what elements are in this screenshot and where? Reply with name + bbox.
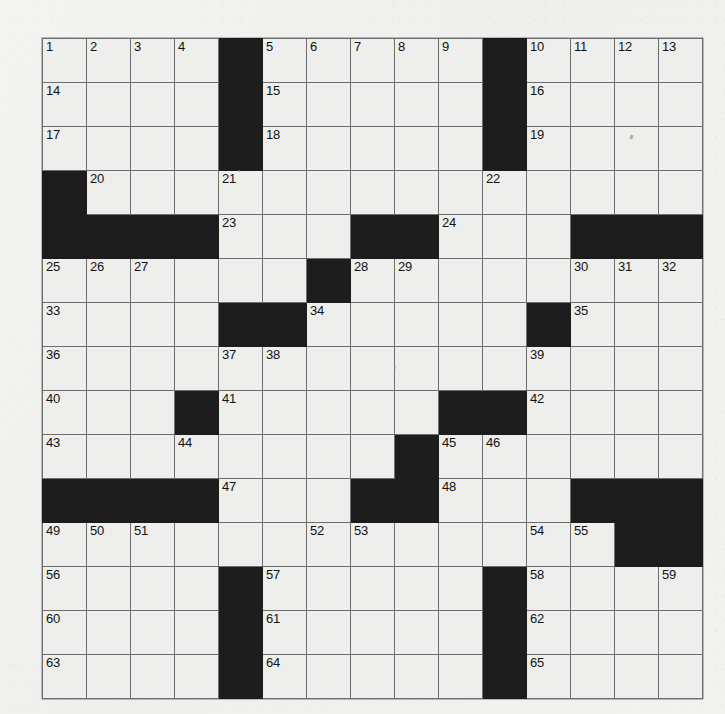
crossword-cell-numbered[interactable]: 3 [131, 39, 175, 83]
crossword-cell-numbered[interactable]: 4 [175, 39, 219, 83]
crossword-cell[interactable] [263, 479, 307, 523]
crossword-cell-numbered[interactable]: 41 [219, 391, 263, 435]
crossword-cell[interactable] [615, 303, 659, 347]
crossword-cell[interactable] [615, 655, 659, 699]
crossword-cell-numbered[interactable]: 10 [527, 39, 571, 83]
crossword-cell-numbered[interactable]: 17 [43, 127, 87, 171]
crossword-cell[interactable] [571, 435, 615, 479]
crossword-cell-numbered[interactable]: 27 [131, 259, 175, 303]
crossword-cell[interactable] [395, 303, 439, 347]
crossword-cell[interactable] [527, 215, 571, 259]
crossword-cell[interactable] [175, 655, 219, 699]
crossword-cell-numbered[interactable]: 51 [131, 523, 175, 567]
crossword-cell[interactable] [263, 215, 307, 259]
crossword-cell-numbered[interactable]: 28 [351, 259, 395, 303]
crossword-cell[interactable] [571, 127, 615, 171]
crossword-cell[interactable] [307, 347, 351, 391]
crossword-cell[interactable] [219, 523, 263, 567]
crossword-cell[interactable] [659, 611, 703, 655]
crossword-cell[interactable] [175, 567, 219, 611]
crossword-cell[interactable] [395, 391, 439, 435]
crossword-cell[interactable] [659, 303, 703, 347]
crossword-cell[interactable] [219, 259, 263, 303]
crossword-cell[interactable] [263, 259, 307, 303]
crossword-cell[interactable] [131, 83, 175, 127]
crossword-cell[interactable] [307, 435, 351, 479]
crossword-cell[interactable] [351, 303, 395, 347]
crossword-cell-numbered[interactable]: 52 [307, 523, 351, 567]
crossword-cell[interactable] [571, 567, 615, 611]
crossword-cell[interactable] [307, 83, 351, 127]
crossword-cell[interactable] [395, 523, 439, 567]
crossword-cell[interactable] [175, 611, 219, 655]
crossword-cell-numbered[interactable]: 33 [43, 303, 87, 347]
crossword-cell[interactable] [395, 171, 439, 215]
crossword-cell[interactable] [131, 391, 175, 435]
crossword-cell[interactable] [439, 523, 483, 567]
crossword-cell[interactable] [351, 655, 395, 699]
crossword-cell[interactable] [263, 435, 307, 479]
crossword-cell[interactable] [351, 611, 395, 655]
crossword-cell[interactable] [87, 347, 131, 391]
crossword-cell-numbered[interactable]: 19 [527, 127, 571, 171]
crossword-cell[interactable] [307, 479, 351, 523]
crossword-cell-numbered[interactable]: 63 [43, 655, 87, 699]
crossword-cell[interactable] [439, 303, 483, 347]
crossword-cell[interactable] [307, 127, 351, 171]
crossword-cell[interactable] [307, 611, 351, 655]
crossword-cell-numbered[interactable]: 36 [43, 347, 87, 391]
crossword-cell[interactable] [175, 171, 219, 215]
crossword-cell[interactable] [439, 655, 483, 699]
crossword-cell[interactable] [87, 83, 131, 127]
crossword-cell[interactable] [439, 171, 483, 215]
crossword-cell[interactable] [483, 259, 527, 303]
crossword-cell-numbered[interactable]: 55 [571, 523, 615, 567]
crossword-cell[interactable] [615, 435, 659, 479]
crossword-cell[interactable] [131, 611, 175, 655]
crossword-cell-numbered[interactable]: 8 [395, 39, 439, 83]
crossword-cell[interactable] [87, 127, 131, 171]
crossword-cell-numbered[interactable]: 42 [527, 391, 571, 435]
crossword-cell[interactable] [571, 391, 615, 435]
crossword-cell[interactable] [659, 83, 703, 127]
crossword-cell[interactable] [615, 347, 659, 391]
crossword-cell[interactable] [483, 215, 527, 259]
crossword-cell[interactable] [131, 567, 175, 611]
crossword-cell-numbered[interactable]: 64 [263, 655, 307, 699]
crossword-cell-numbered[interactable]: 22 [483, 171, 527, 215]
crossword-cell-numbered[interactable]: 40 [43, 391, 87, 435]
crossword-cell-numbered[interactable]: 29 [395, 259, 439, 303]
crossword-cell[interactable] [439, 259, 483, 303]
crossword-cell[interactable] [307, 567, 351, 611]
crossword-cell[interactable] [615, 127, 659, 171]
crossword-cell-numbered[interactable]: 61 [263, 611, 307, 655]
crossword-cell[interactable] [351, 347, 395, 391]
crossword-cell-numbered[interactable]: 60 [43, 611, 87, 655]
crossword-cell-numbered[interactable]: 56 [43, 567, 87, 611]
crossword-cell[interactable] [351, 435, 395, 479]
crossword-cell[interactable] [659, 391, 703, 435]
crossword-cell[interactable] [615, 611, 659, 655]
crossword-cell[interactable] [395, 567, 439, 611]
crossword-cell-numbered[interactable]: 15 [263, 83, 307, 127]
crossword-cell[interactable] [131, 171, 175, 215]
crossword-cell[interactable] [87, 655, 131, 699]
crossword-cell[interactable] [659, 171, 703, 215]
crossword-cell[interactable] [87, 567, 131, 611]
crossword-cell-numbered[interactable]: 45 [439, 435, 483, 479]
crossword-cell[interactable] [483, 523, 527, 567]
crossword-cell[interactable] [351, 171, 395, 215]
crossword-cell[interactable] [439, 127, 483, 171]
crossword-cell[interactable] [175, 259, 219, 303]
crossword-cell-numbered[interactable]: 21 [219, 171, 263, 215]
crossword-cell[interactable] [87, 435, 131, 479]
crossword-cell[interactable] [351, 391, 395, 435]
crossword-cell-numbered[interactable]: 1 [43, 39, 87, 83]
crossword-cell-numbered[interactable]: 6 [307, 39, 351, 83]
crossword-cell-numbered[interactable]: 24 [439, 215, 483, 259]
crossword-cell-numbered[interactable]: 37 [219, 347, 263, 391]
crossword-cell[interactable] [659, 435, 703, 479]
crossword-cell-numbered[interactable]: 38 [263, 347, 307, 391]
crossword-cell[interactable] [615, 567, 659, 611]
crossword-cell-numbered[interactable]: 25 [43, 259, 87, 303]
